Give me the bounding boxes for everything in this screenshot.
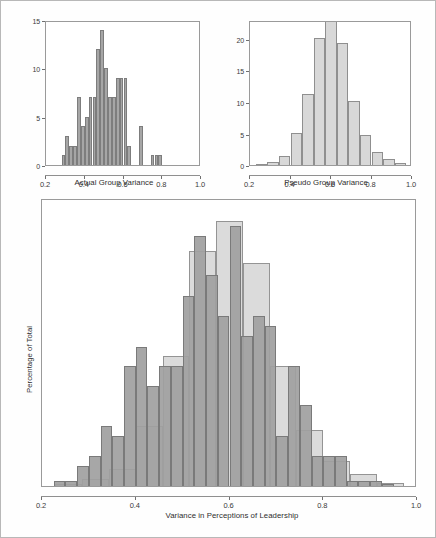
histogram-bar [383,159,395,165]
histogram-bar [194,236,206,486]
histogram-bar [139,126,143,165]
histogram-bar [279,156,291,165]
histogram-bar [230,226,242,486]
plot-area-actual [45,21,200,166]
histogram-bar [325,21,337,165]
histogram-bar [65,481,77,486]
y-axis-tick-mark [246,103,249,104]
bars-actual [46,22,199,165]
histogram-bar [54,481,66,486]
panel-pseudo-group-variance: 05101520 0.20.40.60.81.0 Pseudo Group Va… [223,15,421,191]
y-axis-tick-label: 10 [222,100,244,107]
histogram-bar [158,155,162,165]
histogram-bar [159,366,171,486]
histogram-bar [253,316,265,487]
x-axis-label-pseudo: Pseudo Group Variance [227,178,425,187]
figure-container: 051015 0.20.40.60.81.0 Actual Group Vari… [0,0,436,538]
histogram-bar [337,43,349,165]
y-axis-tick-label: 5 [18,114,40,121]
histogram-bar [347,481,359,486]
histogram-bar [183,296,195,486]
histogram-bar [127,146,131,165]
histogram-bar [276,436,288,486]
panel-overlay-leadership: 0.20.40.60.81.0 Percentage of Total Vari… [19,193,421,529]
histogram-bar [265,326,277,486]
histogram-bar [395,163,407,165]
y-axis-tick-mark [246,135,249,136]
histogram-bar [358,481,370,486]
histogram-bar [372,152,384,165]
histogram-bar [314,38,326,165]
plot-area-overlay [41,199,416,487]
histogram-bar [323,456,335,486]
y-axis-tick-mark [42,118,45,119]
y-axis-tick-label: 0 [18,163,40,170]
histogram-bar [136,347,148,486]
x-axis-label-actual: Actual Group Variance [19,178,209,187]
x-axis-tick-label: 0.4 [123,501,147,510]
histogram-bar [288,366,300,486]
plot-area-pseudo [249,21,411,166]
histogram-bar [291,133,303,165]
y-axis-tick-mark [42,166,45,167]
histogram-bar [256,164,268,165]
y-axis-tick-label: 5 [222,131,244,138]
x-axis-label-overlay: Variance in Perceptions of Leadership [31,511,433,520]
y-axis-tick-label: 15 [222,68,244,75]
x-axis-tick-label: 1.0 [404,501,428,510]
x-axis-tick-mark [322,497,323,500]
y-axis-tick-label: 10 [18,66,40,73]
x-axis-tick-mark [416,497,417,500]
histogram-bar [312,456,324,486]
histogram-bar [370,481,382,486]
bars-pseudo [250,22,410,165]
histogram-bar [241,336,253,486]
histogram-bar [171,366,183,486]
histogram-bar [147,386,159,486]
histogram-bar [124,366,136,486]
histogram-bar [206,275,218,486]
y-axis-tick-mark [246,71,249,72]
y-axis-tick-mark [246,166,249,167]
panel-actual-group-variance: 051015 0.20.40.60.81.0 Actual Group Vari… [19,15,209,191]
histogram-bar [360,135,372,165]
x-axis-tick-mark [135,497,136,500]
y-axis-tick-mark [246,40,249,41]
y-axis-tick-label: 0 [222,163,244,170]
histogram-bar [218,316,230,487]
y-axis-tick-mark [42,69,45,70]
histogram-bar [382,484,394,486]
histogram-bar [89,456,101,486]
y-axis-tick-mark [42,21,45,22]
x-axis-tick-mark [229,497,230,500]
histogram-bar [267,162,279,165]
y-axis-tick-label: 20 [222,36,244,43]
histogram-bar [335,456,347,486]
bars-overlay-actual [42,200,415,486]
histogram-bar [300,405,312,486]
x-axis-tick-label: 0.8 [310,501,334,510]
histogram-bar [112,436,124,486]
y-axis-tick-label: 15 [18,18,40,25]
x-axis-tick-label: 0.2 [29,501,53,510]
x-axis-tick-mark [41,497,42,500]
histogram-bar [77,466,89,486]
histogram-bar [302,94,314,165]
histogram-bar [101,426,113,486]
x-axis-tick-label: 0.6 [217,501,241,510]
y-axis-label-overlay: Percentage of Total [25,326,34,393]
histogram-bar [348,101,360,165]
